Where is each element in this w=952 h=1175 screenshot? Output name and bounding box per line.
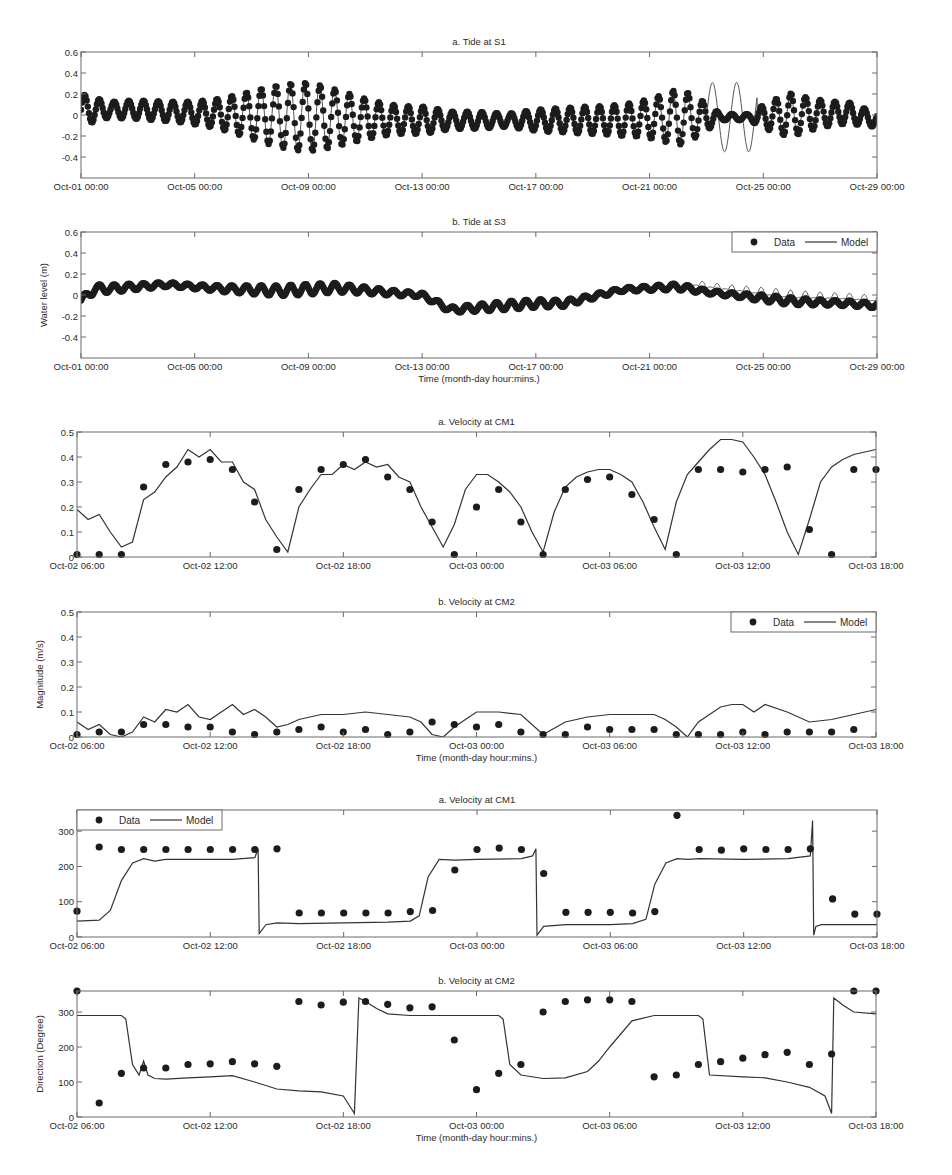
- chart-tide-s3: b. Tide at S30.60.40.20-0.2-0.4Oct-01 00…: [38, 216, 904, 384]
- y-axis-label: Water level (m): [38, 263, 49, 327]
- y-tick-label: 0.5: [61, 607, 74, 618]
- legend-model-label: Model: [186, 815, 213, 826]
- y-tick-label: 0.2: [61, 502, 74, 513]
- x-tick-label: Oct-21 00:00: [622, 181, 677, 192]
- y-tick-label: 0.6: [65, 227, 78, 238]
- y-tick-label: 0.2: [61, 682, 74, 693]
- x-tick-label: Oct-25 00:00: [736, 361, 791, 372]
- y-tick-label: 0: [73, 110, 78, 121]
- data-markers: [73, 718, 857, 738]
- x-tick-label: Oct-03 00:00: [449, 1120, 504, 1131]
- y-tick-label: 200: [58, 1042, 74, 1053]
- y-tick-label: 0.5: [61, 427, 74, 438]
- x-tick-label: Oct-29 00:00: [850, 361, 905, 372]
- y-tick-label: 0.3: [61, 477, 74, 488]
- chart-velocity-cm1-magnitude: a. Velocity at CM10.50.40.30.20.10Oct-02…: [50, 416, 904, 571]
- y-tick-label: 0: [73, 290, 78, 301]
- x-tick-label: Oct-02 06:00: [50, 1120, 105, 1131]
- x-tick-label: Oct-05 00:00: [167, 361, 222, 372]
- data-markers: [78, 279, 881, 315]
- model-line: [77, 440, 876, 555]
- legend-data-marker: [750, 619, 757, 626]
- y-axis-label: Magnitude (m/s): [34, 640, 45, 709]
- x-tick-label: Oct-01 00:00: [54, 181, 109, 192]
- y-tick-label: 0.1: [61, 527, 74, 538]
- x-tick-label: Oct-02 18:00: [316, 1120, 371, 1131]
- data-markers: [78, 80, 880, 154]
- legend-data-label: Data: [774, 237, 796, 248]
- y-tick-label: 0.4: [65, 248, 78, 259]
- y-tick-label: 200: [58, 861, 74, 872]
- x-tick-label: Oct-09 00:00: [281, 181, 336, 192]
- plot-area: [77, 821, 877, 936]
- x-tick-label: Oct-13 00:00: [395, 181, 450, 192]
- x-tick-label: Oct-02 06:00: [50, 560, 105, 571]
- x-tick-label: Oct-02 18:00: [316, 740, 371, 751]
- chart-title: b. Velocity at CM2: [438, 596, 515, 607]
- chart-velocity-cm1-direction: a. Velocity at CM13002001000Oct-02 06:00…: [50, 794, 905, 951]
- x-axis-label: Time (month-day hour:mins.): [416, 752, 538, 763]
- legend: DataModel: [732, 232, 877, 252]
- x-tick-label: Oct-02 12:00: [183, 1120, 238, 1131]
- x-tick-label: Oct-17 00:00: [508, 361, 563, 372]
- plot-area: [78, 279, 881, 315]
- x-axis-label: Time (month-day hour:mins.): [418, 373, 540, 384]
- x-tick-label: Oct-25 00:00: [736, 181, 791, 192]
- legend-data-marker: [96, 817, 103, 824]
- chart-velocity-cm2-direction: b. Velocity at CM23002001000Oct-02 06:00…: [34, 975, 903, 1143]
- x-tick-label: Oct-03 18:00: [849, 740, 904, 751]
- legend-data-label: Data: [773, 617, 795, 628]
- x-tick-label: Oct-02 06:00: [50, 940, 105, 951]
- chart-tide-s1: a. Tide at S10.60.40.20-0.2-0.4Oct-01 00…: [54, 36, 905, 192]
- y-tick-label: 300: [58, 826, 74, 837]
- x-tick-label: Oct-03 12:00: [715, 1120, 770, 1131]
- x-tick-label: Oct-03 00:00: [449, 560, 504, 571]
- y-tick-label: 0.2: [65, 89, 78, 100]
- chart-title: a. Tide at S1: [452, 36, 505, 47]
- x-tick-label: Oct-05 00:00: [167, 181, 222, 192]
- y-tick-label: 0.3: [61, 657, 74, 668]
- legend-data-label: Data: [119, 815, 141, 826]
- plot-area: [77, 440, 876, 555]
- y-tick-label: 0.4: [65, 68, 78, 79]
- chart-title: a. Velocity at CM1: [439, 794, 516, 805]
- y-tick-label: -0.4: [62, 152, 78, 163]
- x-tick-label: Oct-03 06:00: [583, 940, 638, 951]
- x-tick-label: Oct-03 18:00: [850, 940, 905, 951]
- model-line: [77, 998, 876, 1114]
- x-tick-label: Oct-03 18:00: [849, 1120, 904, 1131]
- y-tick-label: 100: [58, 1077, 74, 1088]
- x-tick-label: Oct-09 00:00: [281, 361, 336, 372]
- plot-area: [77, 998, 876, 1114]
- x-tick-label: Oct-02 18:00: [316, 940, 371, 951]
- y-tick-label: 100: [58, 896, 74, 907]
- y-tick-label: 300: [58, 1007, 74, 1018]
- x-tick-label: Oct-03 12:00: [715, 740, 770, 751]
- x-tick-label: Oct-02 12:00: [183, 940, 238, 951]
- chart-title: b. Velocity at CM2: [438, 975, 515, 986]
- axes-frame: [77, 432, 876, 557]
- x-tick-label: Oct-03 00:00: [449, 740, 504, 751]
- plot-area: [78, 80, 880, 154]
- y-tick-label: 0.6: [65, 47, 78, 58]
- x-tick-label: Oct-03 12:00: [715, 560, 770, 571]
- x-tick-label: Oct-02 12:00: [183, 560, 238, 571]
- figure: a. Tide at S10.60.40.20-0.2-0.4Oct-01 00…: [0, 0, 952, 1175]
- y-tick-label: -0.2: [62, 131, 78, 142]
- x-tick-label: Oct-02 06:00: [50, 740, 105, 751]
- x-tick-label: Oct-03 06:00: [582, 1120, 637, 1131]
- legend: DataModel: [77, 810, 222, 830]
- y-tick-label: 0.4: [61, 452, 74, 463]
- y-tick-label: -0.4: [62, 332, 78, 343]
- y-tick-label: -0.2: [62, 311, 78, 322]
- legend: DataModel: [731, 612, 876, 632]
- y-tick-label: 0.4: [61, 632, 74, 643]
- legend-model-label: Model: [841, 237, 868, 248]
- model-line: [77, 821, 877, 936]
- y-axis-label: Direction (Degree): [34, 1015, 45, 1093]
- figure-canvas: a. Tide at S10.60.40.20-0.2-0.4Oct-01 00…: [0, 0, 952, 1175]
- x-tick-label: Oct-03 06:00: [582, 740, 637, 751]
- data-markers: [73, 987, 879, 1106]
- x-tick-label: Oct-03 12:00: [716, 940, 771, 951]
- x-tick-label: Oct-17 00:00: [508, 181, 563, 192]
